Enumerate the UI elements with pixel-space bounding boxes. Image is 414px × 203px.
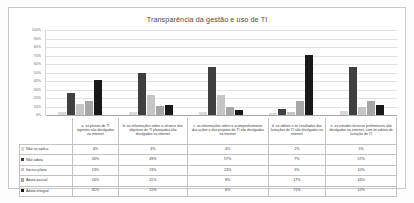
- bar: [147, 95, 155, 115]
- data-cell: 7%: [268, 155, 326, 165]
- data-cell: 12%: [326, 186, 397, 196]
- bar: [217, 95, 225, 115]
- chart-container: Transparência da gestão e uso de TI 100%…: [8, 7, 406, 189]
- bar: [85, 101, 93, 115]
- bar: [94, 80, 102, 115]
- table-row: Iniciou plano13%23%23%3%10%: [20, 165, 397, 175]
- table-row: Adota integral41%12%6%71%12%: [20, 186, 397, 196]
- category-label: e. os estudos técnicos preliminares são …: [326, 118, 397, 145]
- data-table-body: a. os planos de TI vigentes são divulgad…: [20, 118, 397, 196]
- table-row: Adota parcial16%11%9%17%16%: [20, 176, 397, 186]
- legend-swatch-icon: [21, 147, 24, 150]
- data-cell: 4%: [187, 145, 268, 155]
- bar-groups: [45, 30, 397, 115]
- data-cell: 16%: [73, 176, 119, 186]
- legend-entry[interactable]: Não adota: [20, 155, 73, 165]
- category-label: d. os editais e os resultados das licita…: [268, 118, 326, 145]
- bar: [358, 107, 366, 116]
- data-cell: 17%: [268, 176, 326, 186]
- y-axis-tick: 20%: [34, 96, 41, 100]
- bar: [156, 106, 164, 115]
- bar: [226, 107, 234, 115]
- y-axis-tick: 60%: [34, 62, 41, 66]
- bar: [76, 104, 84, 115]
- data-cell: 57%: [326, 155, 397, 165]
- y-axis-tick: 50%: [34, 71, 41, 75]
- data-cell: 3%: [268, 165, 326, 175]
- bar-group: [327, 30, 397, 115]
- data-cell: 13%: [73, 165, 119, 175]
- data-cell: 23%: [187, 165, 268, 175]
- bar: [129, 112, 137, 115]
- bar: [208, 67, 216, 115]
- chart-title: Transparência da gestão e uso de TI: [9, 15, 405, 24]
- plot-area: 100%90%80%70%60%50%40%30%20%10%0%: [9, 30, 405, 123]
- bar: [67, 93, 75, 115]
- data-cell: 26%: [73, 155, 119, 165]
- legend-entry[interactable]: Adota integral: [20, 186, 73, 196]
- bar: [305, 55, 313, 115]
- bar: [340, 111, 348, 115]
- y-axis: 100%90%80%70%60%50%40%30%20%10%0%: [19, 30, 43, 115]
- bar: [367, 101, 375, 115]
- data-cell: 23%: [118, 165, 187, 175]
- legend-label: Adota integral: [26, 189, 49, 193]
- bar-group: [256, 30, 326, 115]
- data-cell: 49%: [118, 155, 187, 165]
- bar: [287, 112, 295, 115]
- y-axis-tick: 30%: [34, 88, 41, 92]
- category-label: c. as informações sobre o acompanhamento…: [187, 118, 268, 145]
- screenshot-root: Transparência da gestão e uso de TI 100%…: [0, 0, 414, 203]
- legend-entry[interactable]: Não se aplica: [20, 145, 73, 155]
- bar: [235, 110, 243, 115]
- data-cell: 6%: [187, 186, 268, 196]
- table-row: Não se aplica4%4%4%2%5%: [20, 145, 397, 155]
- bar: [278, 109, 286, 115]
- bar-group: [186, 30, 256, 115]
- data-cell: 5%: [326, 145, 397, 155]
- data-cell: 11%: [118, 176, 187, 186]
- gridline: [46, 115, 397, 116]
- data-cell: 57%: [187, 155, 268, 165]
- legend-label: Não se aplica: [26, 147, 48, 151]
- bar: [138, 73, 146, 115]
- y-axis-tick: 90%: [34, 37, 41, 41]
- legend-label: Iniciou plano: [26, 168, 47, 172]
- y-axis-tick: 100%: [32, 28, 41, 32]
- data-cell: 41%: [73, 186, 119, 196]
- legend-entry[interactable]: Iniciou plano: [20, 165, 73, 175]
- table-row: Não adota26%49%57%7%57%: [20, 155, 397, 165]
- category-header-row: a. os planos de TI vigentes são divulgad…: [20, 118, 397, 145]
- data-cell: 10%: [326, 165, 397, 175]
- category-label: b. as informações sobre o alcance dos ob…: [118, 118, 187, 145]
- bar: [199, 112, 207, 115]
- bar: [269, 113, 277, 115]
- data-cell: 2%: [268, 145, 326, 155]
- legend-swatch-icon: [21, 158, 24, 161]
- bar-group: [45, 30, 115, 115]
- bar: [58, 112, 66, 115]
- category-label: a. os planos de TI vigentes são divulgad…: [73, 118, 119, 145]
- data-cell: 71%: [268, 186, 326, 196]
- y-axis-tick: 40%: [34, 79, 41, 83]
- y-axis-tick: 80%: [34, 45, 41, 49]
- table-corner: [20, 118, 73, 145]
- bar: [349, 67, 357, 115]
- data-cell: 4%: [73, 145, 119, 155]
- y-axis-tick: 10%: [34, 105, 41, 109]
- legend-label: Adota parcial: [26, 178, 48, 182]
- legend-label: Não adota: [26, 158, 43, 162]
- bar: [296, 101, 304, 115]
- bar: [376, 105, 384, 115]
- legend-entry[interactable]: Adota parcial: [20, 176, 73, 186]
- y-axis-tick: 70%: [34, 54, 41, 58]
- legend-swatch-icon: [21, 178, 24, 181]
- data-cell: 12%: [118, 186, 187, 196]
- legend-swatch-icon: [21, 168, 24, 171]
- bar: [165, 105, 173, 115]
- y-axis-tick: 0%: [36, 113, 41, 117]
- data-cell: 4%: [118, 145, 187, 155]
- data-table: a. os planos de TI vigentes são divulgad…: [19, 118, 397, 197]
- bar-group: [115, 30, 185, 115]
- data-cell: 16%: [326, 176, 397, 186]
